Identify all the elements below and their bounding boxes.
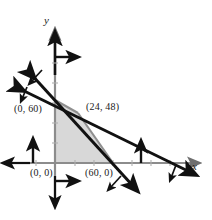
- x-axis-label: x: [192, 160, 197, 172]
- label-x-intercept: (60, 0): [85, 167, 113, 178]
- graph-figure: y x (0, 60) (24, 48) (0, 0) (60, 0): [0, 0, 212, 220]
- axes-group: [4, 34, 194, 206]
- shallow-line-shade-arrow-right: [171, 165, 176, 178]
- label-y-intercept: (0, 60): [14, 103, 42, 114]
- label-origin: (0, 0): [30, 167, 53, 178]
- y-axis-label: y: [44, 14, 49, 26]
- label-intersection: (24, 48): [86, 101, 119, 112]
